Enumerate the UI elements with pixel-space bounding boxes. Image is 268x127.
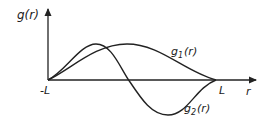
right-tick-label: L: [219, 84, 225, 97]
curve-label-g2: g2(r): [184, 102, 210, 117]
left-tick-label: -L: [40, 84, 50, 97]
g1-base: g: [171, 45, 178, 58]
g2-sub: 2: [191, 108, 196, 117]
g1-arg: (r): [184, 45, 197, 58]
basis-functions-diagram: g(r) g1(r) g2(r) -L L r: [0, 0, 268, 127]
g2-arg: (r): [197, 102, 210, 115]
curve-label-g1: g1(r): [171, 45, 197, 60]
x-axis-label: r: [246, 85, 252, 98]
g2-base: g: [184, 102, 191, 115]
y-axis-label: g(r): [17, 8, 39, 22]
g1-sub: 1: [178, 51, 183, 60]
